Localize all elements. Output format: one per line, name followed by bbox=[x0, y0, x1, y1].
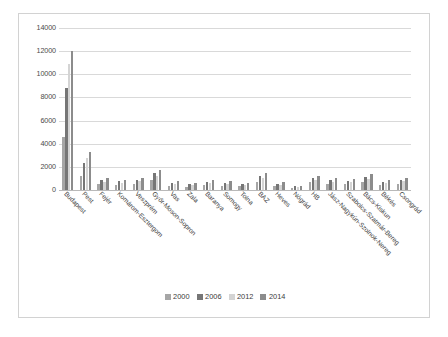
y-tick-label: 6000 bbox=[18, 117, 56, 124]
bar bbox=[265, 173, 267, 190]
bar-group bbox=[358, 28, 376, 190]
legend-label: 2014 bbox=[269, 293, 285, 300]
bar bbox=[212, 180, 214, 190]
y-tick-label: 10000 bbox=[18, 71, 56, 78]
legend-item[interactable]: 2000 bbox=[165, 293, 190, 300]
x-tick-label: BAZ bbox=[257, 190, 271, 204]
bar bbox=[141, 178, 143, 190]
x-tick-label: Nógrád bbox=[292, 190, 312, 210]
x-tick-label: Pest bbox=[81, 190, 95, 204]
bars-layer bbox=[59, 28, 411, 190]
bar-group bbox=[393, 28, 411, 190]
x-tick-label: Zala bbox=[186, 190, 200, 204]
y-tick-label: 4000 bbox=[18, 140, 56, 147]
bar-group bbox=[165, 28, 183, 190]
legend-item[interactable]: 2014 bbox=[260, 293, 285, 300]
bar bbox=[71, 51, 73, 190]
bar bbox=[124, 180, 126, 190]
legend-label: 2006 bbox=[205, 293, 221, 300]
bar bbox=[159, 170, 161, 190]
legend-swatch-icon bbox=[260, 294, 266, 300]
bar-group bbox=[323, 28, 341, 190]
x-tick-label: Tolna bbox=[239, 190, 255, 206]
x-tick-label: HB bbox=[310, 190, 321, 201]
legend-swatch-icon bbox=[229, 294, 235, 300]
bar-group bbox=[235, 28, 253, 190]
legend-label: 2012 bbox=[237, 293, 253, 300]
bar bbox=[106, 178, 108, 190]
y-tick-label: 2000 bbox=[18, 163, 56, 170]
bar bbox=[247, 183, 249, 190]
x-tick-label: Vas bbox=[169, 190, 182, 203]
bar-group bbox=[305, 28, 323, 190]
bar-group bbox=[182, 28, 200, 190]
bar-group bbox=[200, 28, 218, 190]
y-axis: 14000120001000080006000400020000 bbox=[19, 28, 56, 190]
chart-legend: 2000200620122014 bbox=[19, 293, 431, 300]
bar bbox=[353, 179, 355, 190]
bar-group bbox=[217, 28, 235, 190]
bar-group bbox=[112, 28, 130, 190]
x-axis: BudapestPestFejérKomárom-EsztergomVeszpr… bbox=[59, 190, 411, 290]
bar bbox=[282, 182, 284, 190]
bar-group bbox=[77, 28, 95, 190]
legend-label: 2000 bbox=[173, 293, 189, 300]
x-tick-label: Fejér bbox=[98, 190, 113, 205]
y-tick-label: 12000 bbox=[18, 48, 56, 55]
bar bbox=[194, 183, 196, 190]
bar bbox=[335, 178, 337, 190]
bar-group bbox=[94, 28, 112, 190]
bar bbox=[89, 152, 91, 190]
bar bbox=[370, 174, 372, 190]
bar-group bbox=[147, 28, 165, 190]
legend-swatch-icon bbox=[165, 294, 171, 300]
x-tick-label: Heves bbox=[274, 190, 292, 208]
bar bbox=[405, 178, 407, 190]
bar bbox=[229, 181, 231, 190]
bar-group bbox=[270, 28, 288, 190]
legend-item[interactable]: 2012 bbox=[229, 293, 254, 300]
bar-group bbox=[288, 28, 306, 190]
bar-group bbox=[129, 28, 147, 190]
plot-area bbox=[59, 28, 411, 190]
bar-group bbox=[341, 28, 359, 190]
bar bbox=[317, 176, 319, 190]
chart-frame: 14000120001000080006000400020000 Budapes… bbox=[18, 13, 430, 318]
bar-group bbox=[376, 28, 394, 190]
y-tick-label: 8000 bbox=[18, 94, 56, 101]
legend-swatch-icon bbox=[197, 294, 203, 300]
y-tick-label: 14000 bbox=[18, 24, 56, 31]
y-tick-label: 0 bbox=[18, 186, 56, 193]
bar-group bbox=[253, 28, 271, 190]
bar bbox=[177, 181, 179, 190]
bar bbox=[388, 180, 390, 190]
legend-item[interactable]: 2006 bbox=[197, 293, 222, 300]
x-tick-label: Csongrád bbox=[398, 190, 423, 215]
bar-group bbox=[59, 28, 77, 190]
